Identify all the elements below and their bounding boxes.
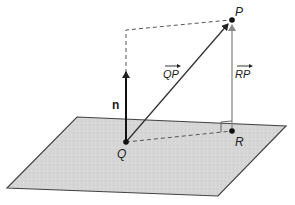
label-n: n <box>112 98 119 112</box>
label-QP: QP <box>163 68 180 80</box>
dashed-projection-frame <box>126 20 230 108</box>
label-QP-overarrow-head <box>177 64 181 68</box>
point-P <box>229 17 235 23</box>
plane <box>7 117 286 196</box>
label-Q: Q <box>117 147 126 161</box>
diagram-canvas: P Q R n QP RP <box>0 0 295 205</box>
label-RP: RP <box>235 68 251 80</box>
label-P: P <box>235 5 243 19</box>
point-Q <box>123 139 129 145</box>
label-R: R <box>235 135 244 149</box>
point-R <box>229 128 235 134</box>
label-RP-overarrow-head <box>249 64 253 68</box>
